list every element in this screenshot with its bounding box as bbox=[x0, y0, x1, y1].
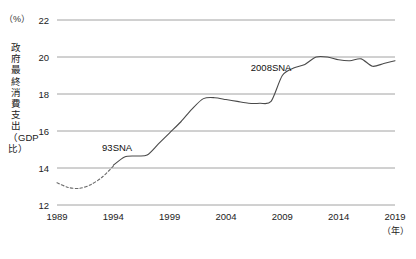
gridlines bbox=[57, 20, 395, 205]
y-axis-tick-label: 12 bbox=[27, 200, 49, 211]
series-annotation: 93SNA bbox=[102, 142, 132, 153]
chart-root: （%） 政府最終消費支出（GDP比） 222018161412 19891994… bbox=[0, 0, 416, 259]
x-axis-unit-label: （年） bbox=[382, 224, 409, 237]
y-axis-tick-label: 22 bbox=[27, 15, 49, 26]
x-axis-tick-label: 2019 bbox=[375, 211, 415, 222]
x-axis-tick-label: 1999 bbox=[150, 211, 190, 222]
x-axis-tick-label: 1994 bbox=[93, 211, 133, 222]
y-axis-tick-label: 20 bbox=[27, 52, 49, 63]
series-layer bbox=[57, 56, 395, 188]
y-axis-tick-label: 16 bbox=[27, 126, 49, 137]
y-axis-tick-label: 18 bbox=[27, 89, 49, 100]
x-axis-tick-label: 1989 bbox=[37, 211, 77, 222]
y-axis-tick-label: 14 bbox=[27, 163, 49, 174]
x-axis-tick-label: 2004 bbox=[206, 211, 246, 222]
series-annotation: 2008SNA bbox=[251, 62, 292, 73]
x-axis-tick-label: 2014 bbox=[319, 211, 359, 222]
series-line bbox=[57, 166, 113, 188]
x-axis-tick-label: 2009 bbox=[262, 211, 302, 222]
